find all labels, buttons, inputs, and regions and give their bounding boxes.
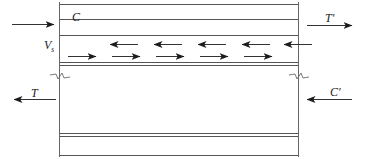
label-Vs: Vs xyxy=(44,39,54,54)
label-C-prime-text: C xyxy=(330,85,338,99)
label-C-text: C xyxy=(72,10,80,24)
section-diagram: C T′ T C′ Vs xyxy=(0,0,366,159)
label-T-prime-mark: ′ xyxy=(332,11,335,25)
label-Vs-subscript: s xyxy=(51,45,54,54)
label-C: C xyxy=(72,11,80,23)
label-T-prime-text: T xyxy=(325,11,332,25)
label-T-text: T xyxy=(31,86,38,100)
break-symbols xyxy=(50,73,309,79)
label-T-prime: T′ xyxy=(325,12,334,24)
label-T: T xyxy=(31,87,38,99)
diagram-canvas xyxy=(0,0,366,159)
label-C-prime: C′ xyxy=(330,86,341,98)
horizontal-lines xyxy=(59,5,298,156)
label-C-prime-mark: ′ xyxy=(338,85,341,99)
